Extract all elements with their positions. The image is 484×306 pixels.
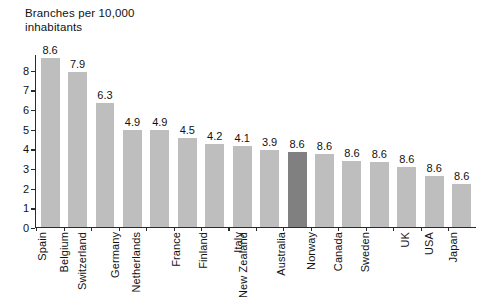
bar-slot: 6.3 — [91, 55, 118, 227]
y-axis-tick-mark — [31, 149, 36, 150]
bar[interactable]: 8.6 — [452, 184, 471, 227]
x-axis-category-label: Netherlands — [130, 232, 142, 292]
bar-slot: 4.2 — [201, 55, 228, 227]
bar-series: 8.67.96.34.94.94.54.24.13.98.68.68.68.68… — [36, 55, 475, 227]
bar[interactable]: 4.2 — [205, 144, 224, 227]
x-axis-tick-mark — [64, 227, 65, 231]
x-axis-category-label: Finland — [196, 232, 208, 269]
category-label-slot: Sweden — [366, 232, 393, 306]
x-axis-category-label: UK — [399, 232, 411, 247]
category-label-slot: Japan — [448, 232, 475, 306]
y-axis-tick-mark — [31, 130, 36, 131]
bar[interactable]: 8.6 — [41, 58, 60, 227]
category-label-slot: UK — [393, 232, 420, 306]
bar-slot: 4.9 — [119, 55, 146, 227]
y-axis-tick-mark — [31, 228, 36, 229]
bar[interactable]: 8.6 — [425, 176, 444, 227]
bar-value-label: 4.9 — [152, 116, 167, 128]
y-axis-tick-mark — [31, 71, 36, 72]
bar-slot: 8.6 — [311, 55, 338, 227]
bar-value-label: 8.6 — [372, 148, 387, 160]
x-axis-tick-mark — [146, 227, 147, 231]
x-axis-tick-mark — [311, 227, 312, 231]
bar[interactable]: 4.5 — [178, 138, 197, 226]
y-axis-tick-mark — [31, 90, 36, 91]
category-label-slot: Finland — [201, 232, 228, 306]
bar-slot: 7.9 — [64, 55, 91, 227]
bar-value-label: 8.6 — [399, 153, 414, 165]
x-axis-category-label: USA — [423, 232, 435, 255]
x-axis-tick-mark — [174, 227, 175, 231]
bar-slot: 8.6 — [283, 55, 310, 227]
x-axis-category-label: Canada — [332, 232, 344, 271]
bar-value-label: 6.3 — [97, 89, 112, 101]
bar[interactable]: 4.9 — [123, 130, 142, 226]
y-axis-tick-label: 7 — [23, 84, 29, 96]
y-axis-tick-mark — [31, 169, 36, 170]
bar[interactable]: 7.9 — [68, 72, 87, 227]
bar[interactable]: 6.3 — [96, 103, 115, 227]
y-axis-tick-label: 6 — [23, 104, 29, 116]
y-axis-tick-mark — [31, 208, 36, 209]
bar-slot: 4.5 — [174, 55, 201, 227]
bar-value-label: 7.9 — [70, 58, 85, 70]
bar-value-label: 8.6 — [427, 162, 442, 174]
y-axis-tick-mark — [31, 110, 36, 111]
bar[interactable]: 8.6 — [315, 154, 334, 227]
x-axis-tick-mark — [338, 227, 339, 231]
chart-title-line-2: inhabitants — [25, 21, 82, 33]
x-axis-category-label: Norway — [306, 232, 318, 270]
x-axis-category-label: Belgium — [57, 232, 69, 272]
bar-slot: 4.9 — [146, 55, 173, 227]
x-axis-category-labels: SpainBelgiumSwitzerlandGermanyNetherland… — [36, 232, 475, 306]
bar[interactable]: 8.6 — [370, 162, 389, 227]
bar-value-label: 4.1 — [235, 132, 250, 144]
bar[interactable]: 4.1 — [233, 146, 252, 227]
bar-value-label: 8.6 — [42, 44, 57, 56]
y-axis-tick-label: 4 — [23, 143, 29, 155]
x-axis-category-label: Switzerland — [76, 232, 88, 290]
bar-slot: 8.6 — [36, 55, 63, 227]
bar-value-label: 8.6 — [289, 138, 304, 150]
category-label-slot: USA — [421, 232, 448, 306]
y-axis-tick-label: 1 — [23, 202, 29, 214]
y-axis-tick-label: 0 — [23, 222, 29, 234]
bar-slot: 3.9 — [256, 55, 283, 227]
plot-area: 012345678 8.67.96.34.94.94.54.24.13.98.6… — [35, 55, 476, 228]
x-axis-category-label: Sweden — [359, 232, 371, 272]
y-axis-tick-label: 8 — [23, 65, 29, 77]
x-axis-category-label: France — [170, 232, 182, 267]
bar-slot: 8.6 — [393, 55, 420, 227]
x-axis-tick-mark — [393, 227, 394, 231]
x-axis-tick-mark — [421, 227, 422, 231]
bar-slot: 8.6 — [338, 55, 365, 227]
bar-value-label: 3.9 — [262, 136, 277, 148]
x-axis-tick-mark — [91, 227, 92, 231]
bar-value-label: 8.6 — [344, 147, 359, 159]
y-axis-tick-label: 2 — [23, 183, 29, 195]
bar[interactable]: 3.9 — [260, 150, 279, 227]
x-axis-category-label: Australia — [275, 232, 287, 276]
x-axis-tick-mark — [36, 227, 37, 231]
y-axis-tick-label: 3 — [23, 163, 29, 175]
bar-slot: 8.6 — [421, 55, 448, 227]
bar-value-label: 4.9 — [125, 116, 140, 128]
x-axis-tick-mark — [119, 227, 120, 231]
bar[interactable]: 4.9 — [150, 130, 169, 226]
x-axis-tick-mark — [228, 227, 229, 231]
y-axis-tick-label: 5 — [23, 124, 29, 136]
x-axis-tick-mark — [256, 227, 257, 231]
x-axis-category-label: Spain — [36, 232, 48, 261]
bar[interactable]: 8.6 — [342, 161, 361, 227]
x-axis-category-label: Germany — [109, 232, 121, 278]
chart-title-line-1: Branches per 10,000 — [25, 7, 135, 19]
chart-title: Branches per 10,000inhabitants — [25, 6, 135, 34]
bar-slot: 4.1 — [228, 55, 255, 227]
x-axis-tick-mark — [448, 227, 449, 231]
bar-value-label: 8.6 — [317, 140, 332, 152]
x-axis-category-label: New Zealand — [237, 232, 249, 298]
bar[interactable]: 8.6 — [397, 167, 416, 227]
bar[interactable]: 8.6 — [288, 152, 307, 227]
bar-value-label: 8.6 — [454, 170, 469, 182]
bar-value-label: 4.5 — [180, 124, 195, 136]
